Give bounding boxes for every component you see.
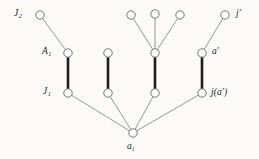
edge-j1-ai [68,93,133,133]
label-j-of-a-prime: j(a′) [211,88,227,98]
edge-t3-m3 [155,15,180,53]
label-j1: J1 [43,87,51,97]
node-fan-center [151,49,159,57]
label-a1: A1 [42,47,51,57]
edge-t1-m3 [131,15,155,53]
node-top-left [127,11,135,19]
node-group [36,10,229,137]
edge-group-thick [68,53,202,93]
node-j-prime [221,11,229,19]
node-bottom-second [104,89,112,97]
node-a1 [64,49,72,57]
node-a-i [129,129,137,137]
node-middle-second [104,49,112,57]
label-a-prime: a′ [212,47,219,57]
label-j-prime: j′ [236,9,241,19]
node-top-right [176,11,184,19]
node-a-prime [198,49,206,57]
edge-jap-ai [133,93,202,133]
node-j1 [64,89,72,97]
node-top-center [151,10,159,18]
graph-canvas [0,0,259,159]
node-bottom-third [151,89,159,97]
node-j2 [36,11,44,19]
edge-b2-ai [108,93,133,133]
label-j2: J2 [14,9,22,19]
label-a-i: ai [127,142,134,152]
tree-diagram: J2 A1 J1 j′ a′ j(a′) ai [0,0,259,159]
node-j-of-a-prime [198,89,206,97]
